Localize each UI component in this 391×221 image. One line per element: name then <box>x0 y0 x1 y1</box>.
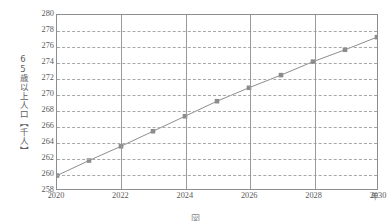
line-series <box>57 15 377 189</box>
horizontal-gridline <box>57 95 377 96</box>
x-tick-label: 2026 <box>241 191 258 201</box>
x-tick-label: 2028 <box>305 191 322 201</box>
horizontal-gridline <box>57 175 377 176</box>
y-axis-tick-labels: 280278276274272270268266264262260258 <box>26 0 56 221</box>
plot-area <box>56 14 378 190</box>
y-axis-title: 65歳以上人口【千人】 <box>7 44 27 164</box>
data-point-marker <box>343 48 348 53</box>
vertical-gridline <box>250 15 251 189</box>
y-tick-label: 280 <box>42 10 54 18</box>
x-tick-label: 2030 <box>370 191 387 201</box>
y-tick-label: 276 <box>42 42 54 50</box>
horizontal-gridline <box>57 79 377 80</box>
vertical-gridline <box>121 15 122 189</box>
y-tick-label: 278 <box>42 26 54 34</box>
y-tick-label: 260 <box>42 170 54 178</box>
horizontal-gridline <box>57 31 377 32</box>
y-tick-label: 272 <box>42 74 54 82</box>
vertical-gridline <box>315 15 316 189</box>
horizontal-gridline <box>57 143 377 144</box>
data-point-marker <box>279 73 284 78</box>
horizontal-gridline <box>57 63 377 64</box>
x-tick-label: 2024 <box>177 191 194 201</box>
x-axis-tick-labels: 年 202020222024202620282030 <box>0 191 391 207</box>
chart-figure: 65歳以上人口【千人】 2802782762742722702682662642… <box>0 0 391 221</box>
horizontal-gridline <box>57 111 377 112</box>
y-tick-label: 268 <box>42 106 54 114</box>
horizontal-gridline <box>57 159 377 160</box>
horizontal-gridline <box>57 47 377 48</box>
y-tick-label: 274 <box>42 58 54 66</box>
data-point-marker <box>151 129 156 134</box>
y-tick-label: 262 <box>42 154 54 162</box>
data-point-marker <box>215 99 220 104</box>
vertical-gridline <box>186 15 187 189</box>
figure-caption: 図 <box>0 214 391 221</box>
y-tick-label: 270 <box>42 90 54 98</box>
x-tick-label: 2020 <box>48 191 65 201</box>
y-tick-label: 266 <box>42 122 54 130</box>
x-tick-label: 2022 <box>112 191 129 201</box>
series-line <box>57 37 377 175</box>
horizontal-gridline <box>57 127 377 128</box>
y-tick-label: 264 <box>42 138 54 146</box>
data-point-marker <box>375 35 377 40</box>
